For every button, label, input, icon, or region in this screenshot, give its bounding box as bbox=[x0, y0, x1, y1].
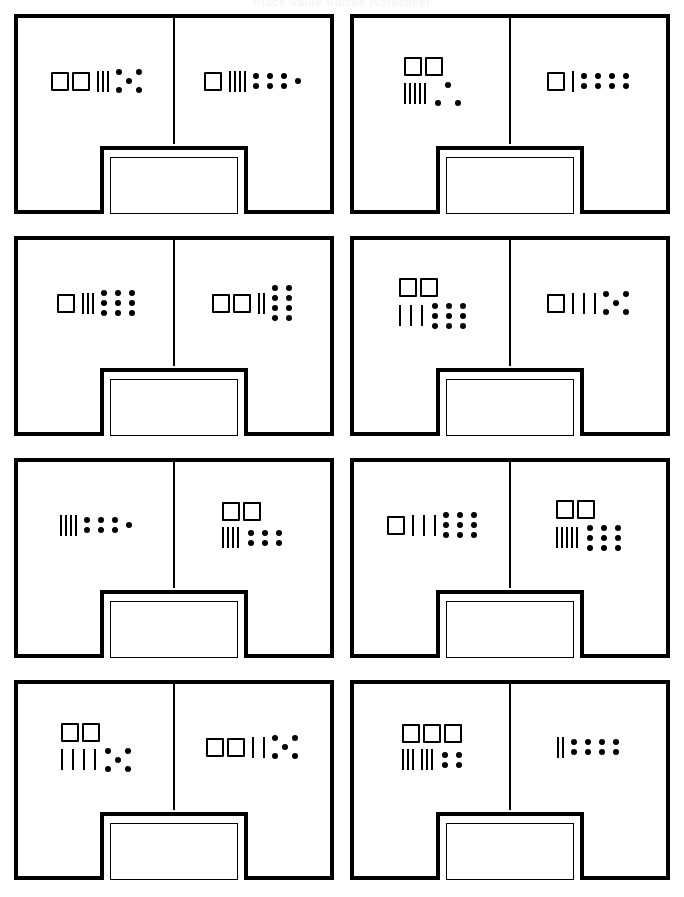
panel-right bbox=[510, 462, 666, 588]
tens-group bbox=[399, 305, 423, 326]
hundreds-square bbox=[402, 724, 420, 743]
problem-box-7 bbox=[14, 680, 334, 880]
tens-tally bbox=[61, 749, 63, 770]
ones-dot bbox=[587, 535, 593, 541]
box-side-right bbox=[666, 366, 670, 436]
hundreds-group bbox=[206, 738, 245, 757]
problem-box-6 bbox=[350, 458, 670, 658]
tens-tally bbox=[424, 83, 426, 104]
hundreds-square bbox=[444, 724, 462, 743]
ones-dot bbox=[615, 545, 621, 551]
token-line bbox=[399, 303, 466, 329]
tens-group bbox=[60, 515, 77, 536]
hundreds-square bbox=[547, 72, 565, 91]
ones-dot bbox=[460, 323, 466, 329]
tens-tally bbox=[404, 83, 406, 104]
panel-left bbox=[18, 18, 174, 144]
token-row bbox=[204, 71, 301, 92]
answer-input[interactable] bbox=[110, 157, 238, 214]
ones-dot bbox=[282, 744, 288, 750]
ones-grid bbox=[253, 73, 287, 89]
tens-tally bbox=[97, 71, 99, 92]
tens-tally bbox=[75, 515, 77, 536]
box-side-right bbox=[330, 366, 334, 436]
ones-grid bbox=[432, 303, 466, 329]
ones-group bbox=[272, 735, 298, 759]
answer-input[interactable] bbox=[110, 823, 238, 880]
ones-group bbox=[581, 73, 629, 89]
box-side-left bbox=[350, 810, 354, 880]
ones-dot bbox=[126, 522, 132, 528]
tens-group bbox=[557, 737, 564, 758]
tens-group bbox=[97, 71, 109, 92]
ones-dot bbox=[281, 83, 287, 89]
panel-left bbox=[18, 462, 174, 588]
hundreds-group bbox=[222, 502, 261, 521]
hundreds-square bbox=[577, 500, 595, 519]
box-bottom-right bbox=[580, 876, 670, 880]
hundreds-square bbox=[387, 516, 405, 535]
answer-input[interactable] bbox=[110, 601, 238, 658]
panel-right bbox=[174, 18, 330, 144]
ones-dot bbox=[456, 752, 462, 758]
tens-tally bbox=[566, 527, 568, 548]
tens-tally bbox=[431, 749, 433, 770]
answer-input[interactable] bbox=[446, 601, 574, 658]
ones-dot bbox=[455, 100, 461, 106]
ones-group bbox=[84, 517, 132, 533]
problem-box-8 bbox=[350, 680, 670, 880]
tens-tally bbox=[426, 749, 428, 770]
box-bottom-right bbox=[244, 654, 334, 658]
ones-dot bbox=[129, 310, 135, 316]
token-row bbox=[51, 69, 142, 93]
ones-dot bbox=[105, 748, 111, 754]
ones-dot bbox=[585, 749, 591, 755]
ones-dot bbox=[623, 291, 629, 297]
box-bottom-left bbox=[14, 210, 104, 214]
ones-dot bbox=[613, 739, 619, 745]
box-side-right bbox=[666, 588, 670, 658]
box-bottom-right bbox=[580, 432, 670, 436]
ones-dot bbox=[101, 290, 107, 296]
tens-tally bbox=[421, 305, 423, 326]
ones-dot bbox=[248, 540, 254, 546]
ones-dot bbox=[601, 545, 607, 551]
panel-right bbox=[174, 684, 330, 810]
ones-dot bbox=[115, 757, 121, 763]
answer-input[interactable] bbox=[446, 823, 574, 880]
ones-dot bbox=[262, 540, 268, 546]
ones-dot bbox=[599, 739, 605, 745]
ones-dot bbox=[457, 522, 463, 528]
tens-tally bbox=[87, 293, 89, 314]
answer-input[interactable] bbox=[446, 379, 574, 436]
problem-box-2 bbox=[350, 14, 670, 214]
ones-dot bbox=[125, 766, 131, 772]
ones-dot bbox=[581, 73, 587, 79]
ones-dot bbox=[281, 73, 287, 79]
box-bottom-left bbox=[14, 432, 104, 436]
ones-dot bbox=[601, 535, 607, 541]
ones-dot bbox=[129, 300, 135, 306]
ones-group bbox=[587, 525, 621, 551]
answer-input[interactable] bbox=[446, 157, 574, 214]
ones-dot bbox=[98, 527, 104, 533]
token-row bbox=[547, 71, 629, 92]
ones-dot bbox=[116, 87, 122, 93]
ones-dot bbox=[295, 78, 301, 84]
ones-dot bbox=[460, 313, 466, 319]
ones-dot bbox=[286, 305, 292, 311]
token-line bbox=[61, 748, 131, 772]
ones-grid bbox=[84, 517, 118, 533]
token-row bbox=[60, 515, 132, 536]
ones-dot bbox=[115, 300, 121, 306]
tens-tally bbox=[102, 71, 104, 92]
box-bottom-right bbox=[580, 210, 670, 214]
ones-grid bbox=[581, 73, 629, 89]
ones-group bbox=[248, 530, 282, 546]
tens-tally bbox=[234, 71, 236, 92]
tens-tally bbox=[258, 293, 260, 314]
ones-dot bbox=[272, 295, 278, 301]
token-line bbox=[556, 525, 621, 551]
ones-dot bbox=[98, 517, 104, 523]
answer-input[interactable] bbox=[110, 379, 238, 436]
